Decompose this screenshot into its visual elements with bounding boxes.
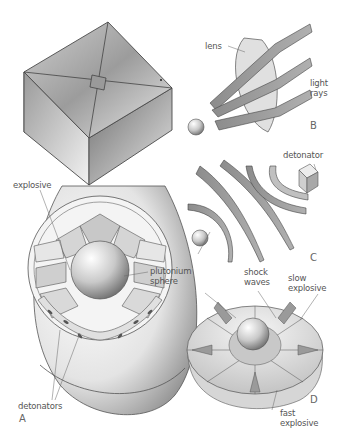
label-shock-waves-line1: shock (244, 267, 268, 277)
bomb-body (28, 186, 197, 415)
label-shock-waves-line2: waves (244, 277, 270, 287)
panel-label-d: D (310, 394, 318, 405)
plutonium-sphere-b (188, 119, 204, 135)
label-detonators: detonators (18, 401, 62, 411)
label-plutonium-sphere-line1: plutonium (150, 266, 191, 276)
label-fast-explosive-line2: explosive (280, 418, 318, 428)
label-plutonium-sphere-line2: sphere (150, 276, 178, 286)
label-slow-explosive-line2: explosive (288, 283, 326, 293)
label-light-rays-line1: light (310, 78, 328, 88)
label-explosive: explosive (13, 180, 51, 190)
panel-label-b: B (310, 120, 317, 131)
diagram-canvas (0, 0, 341, 441)
plutonium-sphere-a (71, 241, 129, 299)
label-light-rays-line2: rays (310, 88, 327, 98)
label-lens: lens (205, 41, 222, 51)
panel-label-a: A (19, 413, 26, 424)
hemisphere-diagram (187, 302, 323, 409)
plutonium-sphere-d (237, 318, 269, 350)
panel-label-c: C (310, 252, 317, 263)
shock-wave-diagram (188, 160, 308, 262)
box-assembly (24, 22, 172, 185)
label-slow-explosive-line1: slow (288, 273, 306, 283)
label-detonator: detonator (283, 150, 323, 160)
plutonium-sphere-c (192, 230, 208, 246)
label-fast-explosive-line1: fast (280, 408, 295, 418)
detonator-cube (299, 164, 318, 193)
